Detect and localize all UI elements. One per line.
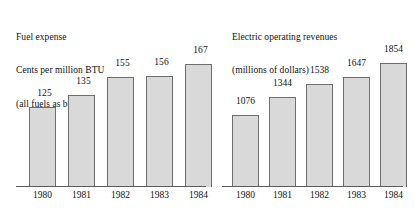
x-axis-line-fuel-expense — [16, 186, 206, 187]
plot-area-electric-revenues: 10761344153816471854 — [210, 0, 415, 187]
bar — [343, 77, 370, 187]
bar-value-label: 1076 — [230, 96, 261, 106]
plot-area-fuel-expense: 125135155156167 — [0, 0, 210, 187]
chart-panel-fuel-expense: Fuel expense Cents per million BTU (all … — [0, 0, 210, 208]
bar-value-label: 1538 — [304, 65, 335, 75]
x-axis-tick-label: 1981 — [65, 190, 98, 201]
bar-value-label: 1854 — [378, 44, 409, 54]
bar — [29, 107, 56, 187]
bar — [185, 64, 212, 187]
x-axis-tick-label: 1980 — [26, 190, 59, 201]
x-axis-tick-label: 1980 — [229, 190, 262, 201]
x-axis-tick-label: 1981 — [266, 190, 299, 201]
x-axis-tick-label: 1982 — [303, 190, 336, 201]
x-axis-tick-label: 1984 — [377, 190, 410, 201]
bar — [146, 76, 173, 187]
two-panel-bar-figure: Fuel expense Cents per million BTU (all … — [0, 0, 415, 208]
bar — [68, 95, 95, 187]
bar — [380, 63, 407, 187]
bar-value-label: 135 — [68, 76, 99, 86]
bar — [306, 84, 333, 187]
bar — [269, 97, 296, 187]
bar-value-label: 156 — [146, 57, 177, 67]
chart-panel-electric-revenues: Electric operating revenues (millions of… — [210, 0, 415, 208]
bar-value-label: 125 — [29, 88, 60, 98]
bar-value-label: 1647 — [341, 58, 372, 68]
bar — [232, 115, 259, 187]
x-axis-line-electric-revenues — [222, 186, 403, 187]
bar — [107, 77, 134, 187]
bar-value-label: 155 — [107, 58, 138, 68]
x-axis-tick-label: 1983 — [340, 190, 373, 201]
x-axis-tick-label: 1983 — [143, 190, 176, 201]
bar-value-label: 1344 — [267, 78, 298, 88]
x-axis-tick-label: 1982 — [104, 190, 137, 201]
